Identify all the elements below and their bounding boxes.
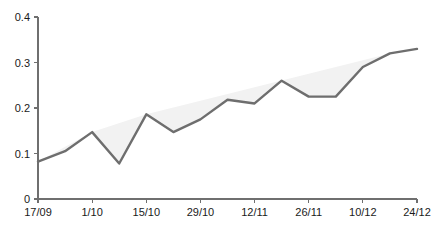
y-tick-label: 0.2 xyxy=(15,102,30,114)
chart-canvas: 00.10.20.30.4 17/091/1015/1029/1012/1126… xyxy=(0,0,440,235)
x-tick-label: 12/11 xyxy=(241,206,268,218)
x-tick-label: 26/11 xyxy=(295,206,322,218)
plot-area-fill xyxy=(38,49,417,164)
y-tick-label-group: 00.10.20.30.4 xyxy=(15,11,30,205)
x-tick-label: 29/10 xyxy=(187,206,215,218)
y-tick-label: 0.1 xyxy=(15,148,30,160)
y-tick-label: 0 xyxy=(24,193,30,205)
y-tick-label: 0.3 xyxy=(15,57,30,69)
x-tick-label: 10/12 xyxy=(349,206,377,218)
x-tick-label: 17/09 xyxy=(24,206,52,218)
x-tick-label-group: 17/091/1015/1029/1012/1126/1110/1224/12 xyxy=(24,206,431,218)
y-tick-label: 0.4 xyxy=(15,11,30,23)
x-tick-label: 15/10 xyxy=(133,206,161,218)
line-chart: 00.10.20.30.4 17/091/1015/1029/1012/1126… xyxy=(0,0,440,235)
y-axis: 00.10.20.30.4 xyxy=(15,11,38,205)
area-fill-shape xyxy=(38,49,417,164)
x-tick-label: 1/10 xyxy=(81,206,102,218)
x-axis: 17/091/1015/1029/1012/1126/1110/1224/12 xyxy=(24,199,431,218)
x-tick-label: 24/12 xyxy=(403,206,431,218)
